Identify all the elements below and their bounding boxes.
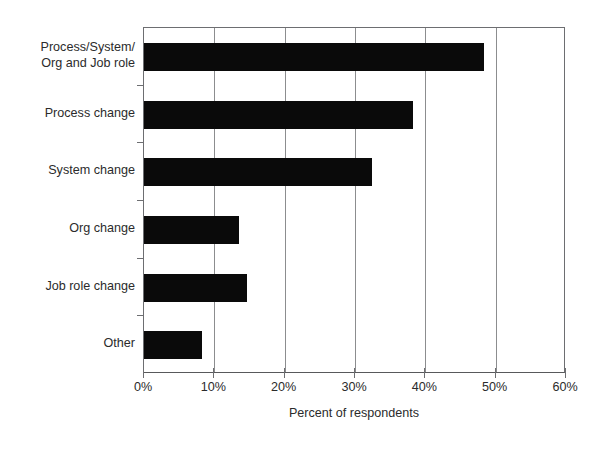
y-axis-label: Org change [0,221,135,237]
x-axis-tick [143,368,144,378]
x-axis-tick [213,368,214,378]
x-axis-tick [495,368,496,378]
y-axis-label: Process change [0,106,135,122]
x-axis-tick-label: 20% [254,380,314,394]
y-axis-tick [137,85,143,86]
y-axis-tick [137,200,143,201]
bar [144,101,413,129]
x-axis-tick-label: 10% [183,380,243,394]
y-axis-category-labels: Process/System/ Org and Job roleProcess … [0,27,135,373]
bar [144,158,372,186]
y-axis-label: Other [0,336,135,352]
gridline-30 [355,28,356,372]
y-axis-tick [137,315,143,316]
x-axis-tick-label: 40% [394,380,454,394]
x-axis-tick [284,368,285,378]
bar [144,331,202,359]
x-axis-tick-label: 30% [324,380,384,394]
x-axis-tick-label: 60% [535,380,595,394]
gridline-50 [496,28,497,372]
x-axis-tick [424,368,425,378]
y-axis-tick [137,142,143,143]
y-axis-label: Process/System/ Org and Job role [0,40,135,71]
x-axis-tick [354,368,355,378]
gridline-40 [425,28,426,372]
y-axis-label: Job role change [0,279,135,295]
gridline-20 [285,28,286,372]
x-axis-tick [565,368,566,378]
bar [144,43,484,71]
x-axis-tick-label: 0% [113,380,173,394]
y-axis-label: System change [0,163,135,179]
gridline-10 [214,28,215,372]
bar-chart: Process/System/ Org and Job roleProcess … [0,0,598,449]
y-axis-tick [137,258,143,259]
bar [144,216,239,244]
plot-area [143,27,565,373]
bar [144,274,247,302]
x-axis-title: Percent of respondents [143,406,565,420]
x-axis-tick-label: 50% [465,380,525,394]
